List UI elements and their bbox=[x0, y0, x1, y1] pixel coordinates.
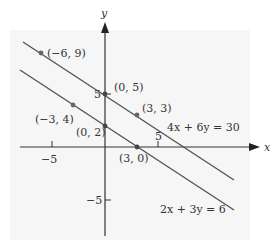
equation-label-4x-6y-30: 4x + 6y = 30 bbox=[167, 121, 240, 134]
x-tick-label--5: −5 bbox=[41, 153, 57, 166]
point-label-neg3-4: (−3, 4) bbox=[35, 113, 74, 126]
equation-label-2x-3y-6: 2x + 3y = 6 bbox=[160, 203, 226, 216]
point-label-0-2: (0, 2) bbox=[76, 126, 106, 139]
point-0-5 bbox=[103, 92, 108, 97]
y-tick-label--5: −5 bbox=[86, 194, 102, 207]
line-graph: x y −5 5 5 −5 (−6, 9) (0, 5) (3, 3) 4x +… bbox=[0, 0, 278, 246]
point-label-3-0: (3, 0) bbox=[119, 152, 149, 165]
point-3-0 bbox=[135, 145, 140, 150]
point-label-0-5: (0, 5) bbox=[114, 81, 144, 94]
point-neg6-9 bbox=[39, 51, 44, 56]
point-3-3 bbox=[135, 113, 140, 118]
x-axis-label: x bbox=[264, 141, 271, 154]
point-label-neg6-9: (−6, 9) bbox=[47, 47, 86, 60]
point-neg3-4 bbox=[71, 103, 76, 108]
point-label-3-3: (3, 3) bbox=[142, 102, 172, 115]
y-axis-arrow-icon bbox=[101, 22, 109, 33]
x-axis-arrow-icon bbox=[249, 143, 260, 151]
y-axis-label: y bbox=[100, 7, 108, 20]
